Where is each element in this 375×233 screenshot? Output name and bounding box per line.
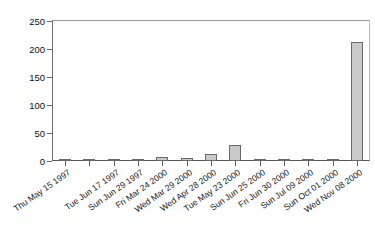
y-tick-label: 250 (19, 17, 45, 26)
x-tick-mark (308, 161, 309, 166)
x-tick-mark (89, 161, 90, 166)
x-tick-mark (357, 161, 358, 166)
y-tick-label: 50 (19, 129, 45, 138)
x-tick-mark (162, 161, 163, 166)
x-tick-mark (333, 161, 334, 166)
y-tick-mark (47, 161, 52, 162)
y-tick-label: 150 (19, 73, 45, 82)
x-tick-mark (138, 161, 139, 166)
x-tick-mark (260, 161, 261, 166)
x-tick-mark (284, 161, 285, 166)
x-tick-mark (187, 161, 188, 166)
y-tick-label: 100 (19, 101, 45, 110)
bar[interactable] (351, 42, 363, 161)
x-tick-mark (114, 161, 115, 166)
bar-chart: Deleted inodes 050100150200250 Thu May 1… (0, 0, 375, 233)
y-tick-label: 0 (19, 157, 45, 166)
bar[interactable] (205, 154, 217, 161)
x-tick-mark (235, 161, 236, 166)
bar[interactable] (229, 145, 241, 161)
bars-container (53, 21, 369, 161)
x-tick-mark (65, 161, 66, 166)
x-tick-mark (211, 161, 212, 166)
x-axis-tick-labels: Thu May 15 1997Tue Jun 17 1997Sun Jun 29… (0, 167, 375, 233)
y-tick-label: 200 (19, 45, 45, 54)
